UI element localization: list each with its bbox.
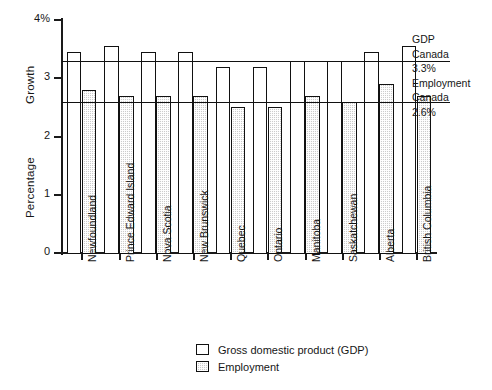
x-axis-category-label: Manitoba bbox=[310, 219, 322, 262]
bar-gdp bbox=[364, 52, 379, 254]
y-axis-tick-label: 0 bbox=[6, 245, 50, 257]
legend-swatch-employment-icon bbox=[196, 361, 209, 372]
reference-line-employment-canada bbox=[62, 102, 450, 104]
bar-gdp bbox=[290, 61, 305, 254]
reference-line-annotations: GDP Canada 3.3% Employment Canada 2.6% bbox=[412, 32, 492, 120]
x-axis-category-label: Saskatchewan bbox=[347, 194, 359, 262]
x-axis-category-label: Nova Scotia bbox=[161, 205, 173, 262]
reference-line-gdp-canada bbox=[62, 61, 450, 63]
legend-label-employment: Employment bbox=[218, 361, 279, 373]
y-axis-tick-mark bbox=[54, 19, 62, 21]
annotation-employment-title: Employment bbox=[412, 76, 492, 91]
y-axis-tick-label: 4% bbox=[6, 12, 50, 24]
legend-item-gdp: Gross domestic product (GDP) bbox=[196, 341, 368, 358]
annotation-gdp-value: 3.3% bbox=[412, 61, 492, 76]
x-axis-category-label: Newfoundland bbox=[86, 195, 98, 262]
x-axis-tick-mark bbox=[379, 254, 381, 260]
x-axis-tick-mark bbox=[230, 254, 232, 260]
bar-gdp bbox=[327, 61, 342, 254]
legend-label-gdp: Gross domestic product (GDP) bbox=[218, 344, 368, 356]
x-axis-category-label: Ontario bbox=[272, 228, 284, 262]
y-axis-tick-mark bbox=[54, 252, 62, 254]
x-axis-tick-mark bbox=[119, 254, 121, 260]
annotation-gdp-title: GDP bbox=[412, 32, 492, 47]
x-axis-tick-mark bbox=[416, 254, 418, 260]
bar-chart: Growth Percentage 01234% NewfoundlandPri… bbox=[0, 0, 492, 390]
y-axis-tick-label: 3 bbox=[6, 70, 50, 82]
x-axis-tick-mark bbox=[305, 254, 307, 260]
x-axis-category-label: New Brunswick bbox=[198, 190, 210, 262]
legend-item-employment: Employment bbox=[196, 358, 368, 375]
y-axis-tick-label: 1 bbox=[6, 187, 50, 199]
y-axis-tick-label: 2 bbox=[6, 129, 50, 141]
legend-swatch-gdp-icon bbox=[196, 344, 209, 355]
chart-legend: Gross domestic product (GDP) Employment bbox=[196, 341, 368, 375]
bar-gdp bbox=[253, 67, 268, 254]
x-axis-category-label: Alberta bbox=[384, 229, 396, 262]
x-axis-tick-mark bbox=[267, 254, 269, 260]
x-axis-tick-mark bbox=[81, 254, 83, 260]
bar-gdp bbox=[178, 52, 193, 254]
bar-gdp bbox=[141, 52, 156, 254]
y-axis-tick-mark bbox=[54, 136, 62, 138]
x-axis-category-label: Prince Edward Island bbox=[124, 163, 136, 262]
x-axis-tick-mark bbox=[342, 254, 344, 260]
x-axis-tick-mark bbox=[193, 254, 195, 260]
x-axis-tick-mark bbox=[156, 254, 158, 260]
annotation-gdp-region: Canada bbox=[412, 47, 492, 62]
bar-gdp bbox=[104, 46, 119, 254]
y-axis-tick-mark bbox=[54, 77, 62, 79]
x-axis-category-label: British Columbia bbox=[421, 186, 433, 262]
bar-gdp bbox=[216, 67, 231, 254]
y-axis-tick-mark bbox=[54, 194, 62, 196]
x-axis-category-label: Quebec bbox=[235, 225, 247, 262]
annotation-employment-value: 2.6% bbox=[412, 105, 492, 120]
bar-gdp bbox=[67, 52, 82, 254]
